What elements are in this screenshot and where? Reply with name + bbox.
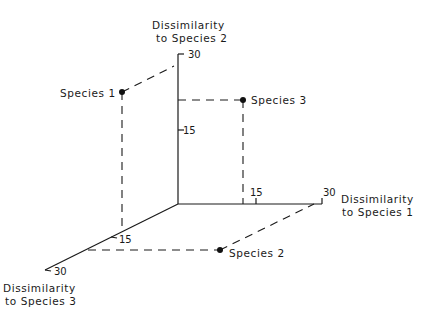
y-axis-tick-label-15: 15 xyxy=(183,125,196,136)
x-axis-tick-label-15: 15 xyxy=(250,187,263,198)
species-2-point xyxy=(217,247,223,253)
z-axis-tick-label-15: 15 xyxy=(119,234,132,245)
species-2-projection-x xyxy=(220,204,314,250)
species-3-label: Species 3 xyxy=(251,94,307,106)
species-3-point xyxy=(240,97,246,103)
x-axis-tick-label-30: 30 xyxy=(323,187,336,198)
x-axis-label-line2: to Species 1 xyxy=(342,206,414,218)
species-1-projection-y xyxy=(122,66,174,92)
species-1-point xyxy=(119,89,125,95)
y-axis-tick-label-30: 30 xyxy=(188,49,201,60)
z-axis-tick-15 xyxy=(111,237,117,238)
z-axis-label-line2: to Species 3 xyxy=(5,295,77,307)
z-axis-tick-30 xyxy=(45,270,51,271)
y-axis-label-line2: to Species 2 xyxy=(156,32,228,44)
y-axis-label-line1: Dissimilarity xyxy=(152,19,225,31)
x-axis-label-line1: Dissimilarity xyxy=(341,193,414,205)
3d-dissimilarity-diagram: Species 1 Species 3 Species 2 Dissimilar… xyxy=(0,0,430,319)
species-2-label: Species 2 xyxy=(229,247,285,259)
species-1-label: Species 1 xyxy=(60,87,116,99)
z-axis-label-line1: Dissimilarity xyxy=(3,282,76,294)
z-axis-tick-label-30: 30 xyxy=(54,266,67,277)
